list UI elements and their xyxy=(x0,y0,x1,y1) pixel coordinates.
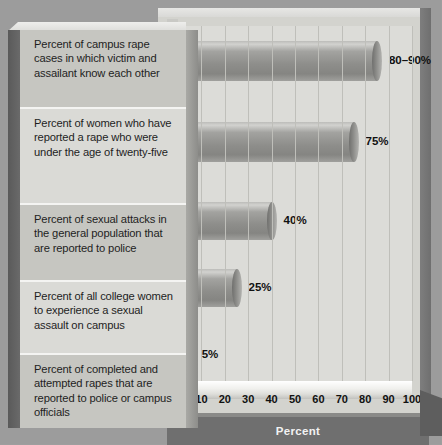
category-label-row: Percent of completed and attempted rapes… xyxy=(20,353,186,428)
bar-body xyxy=(178,41,377,81)
plot-right-wall xyxy=(420,8,431,428)
grid-line xyxy=(412,26,413,381)
grid-line xyxy=(389,26,390,381)
grid-line xyxy=(342,26,343,381)
grid-line xyxy=(225,26,226,381)
x-axis-title: Percent xyxy=(167,417,429,445)
category-label-row: Percent of women who have reported a rap… xyxy=(20,107,186,203)
label-right-edge xyxy=(186,30,198,428)
x-tick-label: 40 xyxy=(265,393,277,405)
plot-top-bevel xyxy=(158,8,431,17)
x-tick-label: 60 xyxy=(312,393,324,405)
category-label-block: Percent of campus rape cases in which vi… xyxy=(8,22,186,428)
x-tick-label: 100 xyxy=(403,393,421,405)
grid-line xyxy=(248,26,249,381)
plot-block: 80–90%75%40%25%5% 0102030405060708090100… xyxy=(158,8,431,428)
bar-end-cap xyxy=(232,269,242,307)
x-tick-label: 20 xyxy=(219,393,231,405)
category-label-row: Percent of campus rape cases in which vi… xyxy=(20,30,186,107)
label-face: Percent of campus rape cases in which vi… xyxy=(20,30,186,428)
category-rows: Percent of campus rape cases in which vi… xyxy=(20,30,186,428)
bar-end-cap xyxy=(372,41,382,81)
grid-line xyxy=(365,26,366,381)
bar xyxy=(178,122,354,162)
category-label-text: Percent of sexual attacks in the general… xyxy=(34,213,167,254)
bar xyxy=(178,41,377,81)
x-tick-label: 90 xyxy=(382,393,394,405)
bar-value-label: 80–90% xyxy=(389,54,431,66)
bar-value-label: 75% xyxy=(366,135,389,147)
plot-area: 80–90%75%40%25%5% xyxy=(178,26,412,381)
grid-line xyxy=(201,26,202,381)
x-tick-label: 70 xyxy=(336,393,348,405)
x-tick-label: 80 xyxy=(359,393,371,405)
bar-value-label: 5% xyxy=(202,348,219,360)
x-tick-label: 30 xyxy=(242,393,254,405)
category-label-text: Percent of all college women to experien… xyxy=(34,290,173,331)
bar-end-cap xyxy=(349,122,359,162)
grid-line xyxy=(272,26,273,381)
x-tick-label: 50 xyxy=(289,393,301,405)
bar-body xyxy=(178,122,354,162)
label-left-wall xyxy=(8,30,20,428)
category-label-text: Percent of completed and attempted rapes… xyxy=(34,363,172,418)
category-label-row: Percent of all college women to experien… xyxy=(20,280,186,353)
grid-line xyxy=(318,26,319,381)
x-axis-ticks: 0102030405060708090100 xyxy=(178,393,412,411)
category-label-row: Percent of sexual attacks in the general… xyxy=(20,203,186,280)
category-label-text: Percent of campus rape cases in which vi… xyxy=(34,38,160,79)
bar-value-label: 25% xyxy=(249,281,272,293)
grid-line xyxy=(295,26,296,381)
category-label-text: Percent of women who have reported a rap… xyxy=(34,117,171,158)
axis-title-band: Percent xyxy=(167,417,429,445)
